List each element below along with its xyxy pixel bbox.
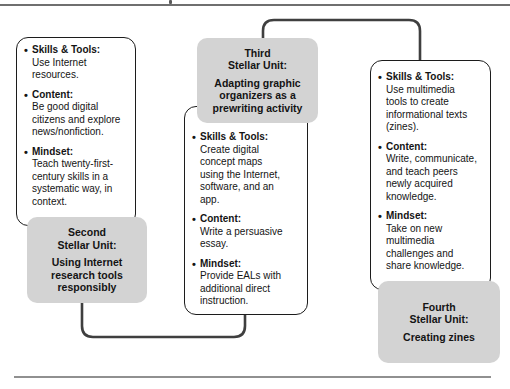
bullet-icon: • [378,210,386,223]
list-item: • Skills & Tools: Use multimedia tools t… [378,71,486,134]
unit-subtitle: Creating zines [403,331,475,344]
list-item: • Content: Write, communicate, and teach… [378,141,486,204]
unit-label-second: Second Stellar Unit: Using Internet rese… [27,217,147,303]
item-body: Provide EALs with additional direct inst… [200,270,302,308]
bullet-icon: • [378,71,386,84]
item-body: Use Internet resources. [32,57,130,82]
detail-box-third-unit: • Skills & Tools: Create digital concept… [184,106,308,315]
item-header: Mindset: [200,258,302,271]
bullet-icon: • [192,258,200,271]
item-body: Teach twenty-first- century skills in a … [32,158,130,208]
list-item: • Content: Write a persuasive essay. [192,213,302,251]
item-header: Content: [386,141,486,154]
unit-label-fourth: Fourth Stellar Unit: Creating zines [378,281,500,363]
item-header: Skills & Tools: [386,71,486,84]
item-body: Write a persuasive essay. [200,226,302,251]
item-body: Take on new multimedia challenges and sh… [386,223,486,273]
bullet-icon: • [24,89,32,102]
item-header: Mindset: [32,146,130,159]
list-item: • Skills & Tools: Use Internet resources… [24,44,130,82]
detail-box-second-unit: • Skills & Tools: Use Internet resources… [16,37,136,226]
item-body: Be good digital citizens and explore new… [32,101,130,139]
unit-label-third: Third Stellar Unit: Adapting graphic org… [197,38,318,123]
unit-subtitle: Adapting graphic organizers as a prewrit… [213,77,303,115]
item-header: Content: [200,213,302,226]
item-body: Create digital concept maps using the In… [200,144,302,207]
item-header: Skills & Tools: [200,131,302,144]
list-item: • Mindset: Provide EALs with additional … [192,258,302,308]
bullet-icon: • [192,131,200,144]
item-header: Mindset: [386,210,486,223]
unit-title: Second Stellar Unit: [58,226,117,251]
item-header: Content: [32,89,130,102]
list-item: • Content: Be good digital citizens and … [24,89,130,139]
unit-subtitle: Using Internet research tools responsibl… [51,256,123,294]
list-item: • Mindset: Teach twenty-first- century s… [24,146,130,209]
bullet-icon: • [24,146,32,159]
item-body: Use multimedia tools to create informati… [386,84,486,134]
figure-page: • Skills & Tools: Use Internet resources… [0,0,510,389]
list-item: • Skills & Tools: Create digital concept… [192,131,302,206]
item-body: Write, communicate, and teach peers newl… [386,153,486,203]
bullet-icon: • [378,141,386,154]
unit-title: Third Stellar Unit: [228,47,287,72]
unit-title: Fourth Stellar Unit: [410,301,469,326]
detail-box-fourth-unit: • Skills & Tools: Use multimedia tools t… [370,60,491,290]
item-header: Skills & Tools: [32,44,130,57]
list-item: • Mindset: Take on new multimedia challe… [378,210,486,273]
bullet-icon: • [24,44,32,57]
bullet-icon: • [192,213,200,226]
